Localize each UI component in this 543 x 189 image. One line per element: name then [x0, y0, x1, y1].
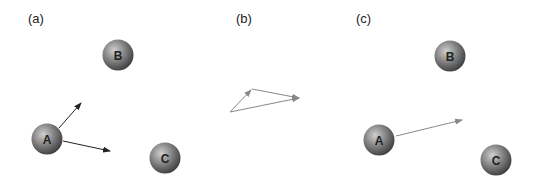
vector-2-arrow	[252, 89, 299, 98]
sphere-c: C	[150, 143, 181, 174]
svg-text:B: B	[114, 49, 123, 63]
svg-text:A: A	[375, 134, 384, 148]
sphere-c: C	[481, 145, 512, 176]
arrow-a-up	[59, 103, 81, 128]
sphere-a: A	[32, 124, 63, 155]
resultant-arrow-c	[396, 120, 462, 136]
panel-b	[230, 89, 299, 112]
sphere-b: B	[435, 41, 466, 72]
svg-text:B: B	[446, 50, 455, 64]
sphere-b: B	[103, 40, 134, 71]
resultant-arrow	[230, 98, 299, 112]
svg-text:C: C	[492, 154, 501, 168]
sphere-a: A	[364, 125, 395, 156]
panel-a: A B C	[32, 40, 181, 174]
svg-text:A: A	[43, 133, 52, 147]
svg-text:C: C	[161, 152, 170, 166]
panel-c: A B C	[364, 41, 512, 176]
diagram-canvas: A B C A B C	[0, 0, 543, 189]
arrow-a-right	[63, 141, 110, 151]
